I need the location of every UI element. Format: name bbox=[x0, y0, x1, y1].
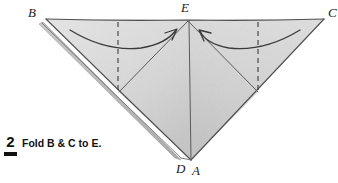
step-instruction-text: Fold B & C to E. bbox=[22, 134, 101, 149]
origami-figure: B E C D A 2 Fold B & C to E. bbox=[0, 0, 338, 183]
step-number-underline-rule bbox=[4, 152, 17, 156]
step-number: 2 bbox=[6, 135, 14, 148]
vertex-label-b: B bbox=[28, 6, 36, 19]
vertex-label-d: D bbox=[176, 162, 185, 175]
step-caption: 2 Fold B & C to E. bbox=[4, 134, 101, 156]
vertex-label-e: E bbox=[181, 1, 189, 14]
vertex-label-a: A bbox=[192, 164, 200, 177]
step-number-block: 2 bbox=[4, 134, 17, 156]
vertex-label-c: C bbox=[328, 6, 337, 19]
